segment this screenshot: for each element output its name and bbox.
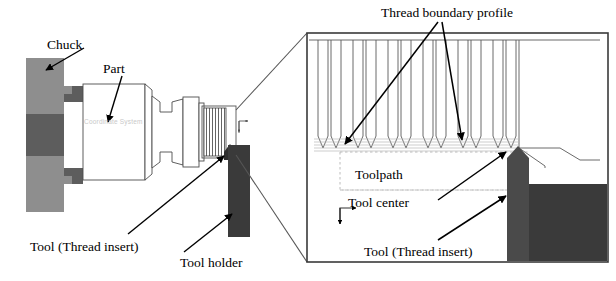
part-collar: [183, 97, 199, 167]
tool-assembly-left: [224, 144, 250, 237]
part-shoulder-ring: [199, 103, 204, 161]
label-tool-thread-insert-left: Tool (Thread insert): [30, 240, 139, 254]
part-right-face: [145, 84, 152, 180]
tool-holder-right: [529, 184, 607, 261]
connector-top: [236, 33, 307, 110]
label-part: Part: [103, 62, 125, 76]
chuck-band-bottom: [26, 156, 64, 212]
chuck-jaw-lower-inner: [64, 176, 72, 184]
label-tool-thread-insert-right: Tool (Thread insert): [364, 245, 473, 259]
chuck-band-middle: [26, 114, 64, 156]
chuck-assembly: [26, 58, 83, 212]
label-thread-boundary-profile: Thread boundary profile: [381, 6, 513, 20]
label-tool-center: Tool center: [348, 196, 409, 210]
chuck-band-top: [26, 58, 64, 114]
figure-root: Chuck Part Tool (Thread insert) Tool hol…: [0, 0, 616, 281]
part-main-cylinder: [83, 84, 145, 180]
coordinate-axes-icon-left: [239, 121, 248, 133]
label-tool-holder: Tool holder: [180, 256, 242, 270]
thread-region-body: [204, 108, 226, 156]
label-coordinate-system: Coordinate System: [84, 118, 143, 125]
part-body: [83, 84, 204, 180]
label-toolpath: Toolpath: [355, 168, 403, 182]
tool-insert-right-shank: [507, 158, 529, 261]
part-necked-section: [152, 96, 183, 168]
thread-region-left: [204, 108, 226, 156]
chuck-jaw-upper-inner: [64, 86, 72, 94]
leader-tool-holder: [184, 214, 232, 252]
label-chuck: Chuck: [47, 38, 82, 52]
